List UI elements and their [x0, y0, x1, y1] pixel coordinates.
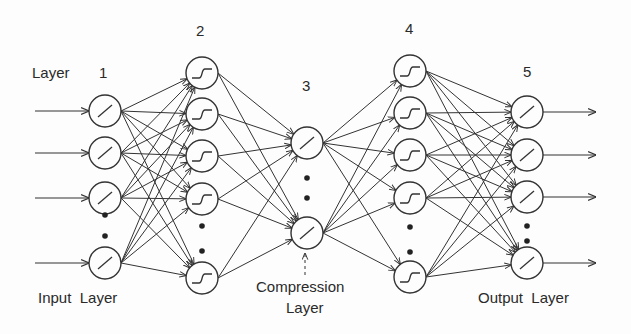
- edge-l1n4-l2n4: [121, 208, 189, 263]
- input-layer-label: Input Layer: [38, 289, 117, 306]
- edge-l4n1-l5n4: [426, 71, 519, 249]
- neuron-layer1-4: [89, 247, 121, 279]
- edge-l1n2-l2n1: [121, 83, 190, 153]
- neuron-layer2-2: [186, 98, 218, 130]
- ellipsis-dot-layer3-2: [304, 195, 310, 201]
- neuron-layer1-2: [89, 137, 121, 169]
- edge-l3n1-l4n5: [323, 143, 400, 264]
- edge-l3n1-l4n2: [323, 117, 395, 143]
- neuron-layer4-4: [394, 182, 426, 214]
- neuron-layer2-1: [186, 57, 218, 89]
- edge-l4n1-l5n3: [426, 71, 516, 185]
- ellipsis-dot-layer5-2: [524, 238, 530, 244]
- layer-number-2: 2: [196, 22, 204, 39]
- neuron-layer5-2: [511, 139, 543, 171]
- compression-label-line1: Compression: [256, 278, 344, 295]
- edge-l1n2-l2n3: [121, 153, 186, 156]
- neuron-layer4-5: [394, 261, 426, 293]
- ellipsis-dot-layer2-1: [199, 223, 205, 229]
- layer-number-5: 5: [523, 63, 531, 80]
- edge-l4n4-l5n4: [426, 198, 513, 255]
- neuron-layer5-4: [511, 247, 543, 279]
- connections: [121, 71, 519, 278]
- neuron-layer2-3: [186, 140, 218, 172]
- neuron-layer5-3: [511, 181, 543, 213]
- edge-l4n1-l5n2: [426, 71, 514, 146]
- edge-l2n1-l3n2: [218, 73, 298, 220]
- layer-number-3: 3: [302, 77, 310, 94]
- edge-l4n5-l5n2: [426, 167, 516, 277]
- edge-l2n2-l3n1: [218, 114, 292, 139]
- edge-l1n4-l2n5: [121, 263, 186, 276]
- neuron-layer1-3: [89, 182, 121, 214]
- ellipsis-dot-layer1-1: [102, 212, 108, 218]
- edge-l4n2-l5n1: [426, 112, 511, 113]
- neuron-layer5-1: [511, 96, 543, 128]
- edge-l3n2-l4n1: [323, 85, 401, 233]
- edge-l4n1-l5n1: [426, 71, 512, 107]
- neuron-layer4-2: [394, 97, 426, 129]
- edge-l3n2-l4n3: [323, 165, 397, 233]
- neuron-layer4-3: [394, 139, 426, 171]
- edge-l2n1-l3n1: [218, 73, 294, 134]
- edge-l2n4-l3n1: [218, 151, 293, 199]
- neuron-layer3-1: [291, 127, 323, 159]
- autoencoder-diagram: Layer 1 2 3 4 5 Input Layer Compression …: [0, 0, 631, 334]
- compression-label-line2: Layer: [286, 299, 324, 316]
- edge-l4n4-l5n3: [426, 197, 511, 198]
- neuron-layer1-1: [89, 95, 121, 127]
- ellipsis-dot-layer1-2: [102, 233, 108, 239]
- ellipsis-dot-layer5-1: [524, 223, 530, 229]
- ellipsis-dot-layer4-2: [407, 249, 413, 255]
- layer-number-4: 4: [405, 20, 413, 37]
- edge-l1n4-l2n1: [121, 87, 195, 263]
- neuron-layer4-1: [394, 55, 426, 87]
- neuron-layer2-5: [186, 262, 218, 294]
- edge-l2n4-l3n2: [218, 199, 292, 228]
- neuron-layer3-2: [291, 217, 323, 249]
- edge-l2n5-l3n1: [218, 156, 297, 278]
- edge-l4n4-l5n2: [426, 161, 512, 198]
- edge-l3n1-l4n4: [323, 143, 396, 190]
- ellipsis-dot-layer4-1: [407, 224, 413, 230]
- output-layer-label: Output Layer: [478, 289, 569, 306]
- edge-l4n2-l5n3: [426, 113, 514, 188]
- edge-l1n3-l2n3: [121, 162, 187, 198]
- edge-l2n2-l3n2: [218, 114, 296, 221]
- edge-l3n1-l4n1: [323, 80, 397, 143]
- edge-l4n5-l5n1: [426, 125, 518, 277]
- edge-l1n3-l2n4: [121, 198, 186, 199]
- layer-number-1: 1: [99, 64, 107, 81]
- edge-l1n1-l2n1: [121, 79, 187, 111]
- ellipsis-dot-layer2-2: [199, 248, 205, 254]
- edge-l2n5-l3n2: [218, 239, 292, 278]
- edge-l1n1-l2n5: [121, 111, 194, 264]
- ellipsis-dot-layer3-1: [304, 175, 310, 181]
- edge-l2n3-l3n1: [218, 145, 291, 156]
- neuron-layer2-4: [186, 183, 218, 215]
- layer-word-label: Layer: [32, 64, 70, 81]
- edge-l4n2-l5n2: [426, 113, 512, 150]
